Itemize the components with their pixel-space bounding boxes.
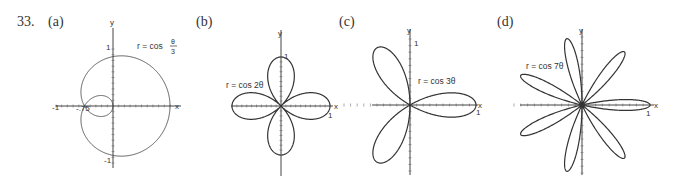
x-axis-label: x — [334, 102, 338, 111]
plot-c: y x 1 1 r = cos 3θ — [344, 26, 482, 175]
svg-text:3: 3 — [171, 48, 175, 55]
x-axis-label: x — [654, 101, 658, 110]
inner-loop-tick: -.75 — [76, 104, 90, 113]
svg-text:r = cos: r = cos — [137, 41, 163, 51]
y-axis-label: y — [110, 18, 114, 27]
equation-a: r = cos θ 3 — [137, 38, 177, 55]
y-tick-1: 1 — [414, 39, 419, 48]
equation-b: r = cos 2θ — [226, 80, 264, 90]
y-tick-1: 1 — [106, 43, 111, 52]
x-axis-label: x — [175, 102, 179, 111]
y-axis-label: y — [407, 26, 411, 35]
plot-d: y x 1 r = cos 7θ — [514, 26, 658, 175]
y-axis-label: y — [579, 26, 583, 35]
plot-b: y x 1 1 r = cos 2θ — [226, 29, 338, 176]
polar-plots: y x 1 -1 -1 -.75 r = cos θ 3 y x 1 1 r =… — [0, 0, 680, 189]
x-tick-1: 1 — [646, 109, 651, 118]
y-tick-neg1: -1 — [104, 156, 112, 165]
y-tick-1: 1 — [284, 52, 289, 61]
svg-text:θ: θ — [171, 38, 175, 45]
equation-c: r = cos 3θ — [418, 76, 456, 86]
equation-d: r = cos 7θ — [526, 61, 564, 71]
x-tick-1: 1 — [328, 111, 333, 120]
y-axis-label: y — [278, 29, 282, 38]
x-tick-1: 1 — [476, 108, 481, 117]
plot-a: y x 1 -1 -1 -.75 r = cos θ 3 — [52, 18, 181, 168]
